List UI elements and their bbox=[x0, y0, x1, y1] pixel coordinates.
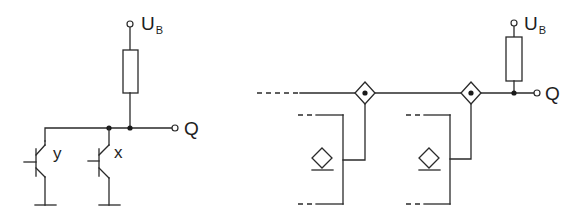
junction-dot-icon bbox=[468, 90, 473, 95]
stage-2 bbox=[406, 82, 481, 204]
control-diamond-icon bbox=[312, 148, 332, 168]
right-circuit: UB Q bbox=[257, 13, 560, 204]
supply-terminal-icon bbox=[511, 20, 517, 26]
junction-dot-icon bbox=[127, 125, 132, 130]
transistor-x-label: x bbox=[114, 143, 123, 162]
junction-dot-icon bbox=[511, 90, 516, 95]
control-diamond-icon bbox=[419, 148, 439, 168]
stage-1 bbox=[298, 82, 375, 204]
supply-terminal-icon bbox=[127, 21, 133, 27]
output-terminal-icon bbox=[172, 125, 178, 131]
transistor-x-icon bbox=[88, 128, 120, 205]
junction-dot-icon bbox=[362, 90, 367, 95]
output-terminal-icon bbox=[534, 90, 540, 96]
left-circuit: UB Q y x bbox=[24, 13, 199, 205]
transistor-y-icon bbox=[24, 141, 56, 205]
circuit-diagram: UB Q y x bbox=[0, 0, 579, 214]
pull-up-resistor-icon bbox=[123, 50, 138, 93]
output-label: Q bbox=[545, 83, 560, 104]
transistor-y-label: y bbox=[53, 144, 62, 163]
output-label: Q bbox=[184, 118, 199, 139]
supply-label: UB bbox=[141, 13, 163, 36]
pull-up-resistor-icon bbox=[506, 37, 522, 81]
supply-label: UB bbox=[524, 13, 546, 36]
